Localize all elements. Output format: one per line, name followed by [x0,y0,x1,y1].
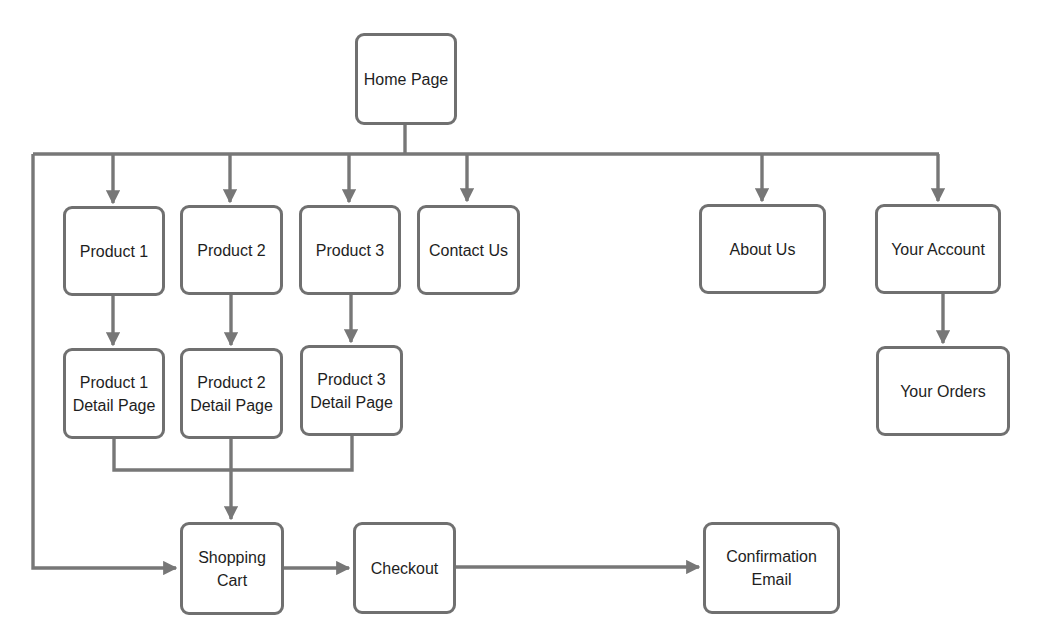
node-label: Shopping Cart [198,546,266,592]
node-label: Product 2 [197,239,265,262]
node-label: Contact Us [429,239,508,262]
node-product-1-detail: Product 1 Detail Page [63,348,165,439]
node-product-3-detail: Product 3 Detail Page [300,345,403,436]
node-your-orders: Your Orders [876,346,1010,436]
node-product-1: Product 1 [63,206,165,296]
connector-layer [0,0,1044,642]
node-your-account: Your Account [875,204,1001,294]
node-label: Home Page [364,68,449,91]
node-home-page: Home Page [355,33,457,125]
node-shopping-cart: Shopping Cart [180,522,284,615]
node-product-2: Product 2 [180,205,283,295]
node-label: Product 2 Detail Page [190,371,273,417]
details-merge-line [114,436,352,470]
node-product-3: Product 3 [299,205,401,295]
node-label: About Us [730,238,796,261]
node-label: Your Account [891,238,985,261]
node-label: Checkout [371,557,439,580]
node-label: Product 1 Detail Page [73,371,156,417]
node-label: Product 3 [316,239,384,262]
node-checkout: Checkout [353,522,456,614]
node-product-2-detail: Product 2 Detail Page [180,348,283,439]
node-label: Confirmation Email [726,545,817,591]
node-about-us: About Us [699,204,826,294]
node-label: Product 3 Detail Page [310,368,393,414]
node-label: Product 1 [80,240,148,263]
node-label: Your Orders [900,380,986,403]
node-contact-us: Contact Us [417,205,520,295]
node-confirmation-email: Confirmation Email [703,522,840,614]
